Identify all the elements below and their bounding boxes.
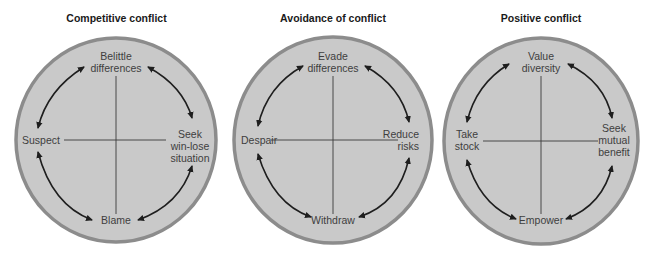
- label-top: Value diversity: [522, 50, 561, 74]
- label-right: Reduce risks: [379, 128, 419, 152]
- label-right: Seek mutual benefit: [598, 122, 630, 158]
- label-right: Seek win-lose situation: [170, 128, 209, 164]
- label-bottom: Withdraw: [311, 214, 355, 226]
- label-left: Suspect: [22, 134, 60, 146]
- label-top: Evade differences: [307, 50, 358, 74]
- label-left: Despair: [241, 134, 277, 146]
- label-bottom: Empower: [519, 214, 563, 226]
- label-left: Take stock: [455, 128, 480, 152]
- competitive-conflict-diagram: Competitive conflict Belittle difference…: [0, 0, 233, 261]
- avoidance-of-conflict-diagram: Avoidance of conflict Evade differences …: [233, 0, 438, 261]
- label-top: Belittle differences: [90, 50, 141, 74]
- label-bottom: Blame: [101, 214, 131, 226]
- positive-conflict-diagram: Positive conflict Value diversity Seek m…: [440, 0, 653, 261]
